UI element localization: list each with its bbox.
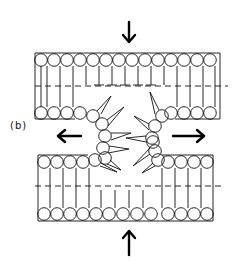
upper-bottom-heads [35,107,217,120]
splayed-lipids-left [87,96,131,172]
lower-top-heads [38,156,214,169]
upper-top-heads [35,54,217,67]
arrow-right-icon [173,130,204,142]
upper-bilayer [35,53,228,119]
lower-bilayer [35,155,222,221]
arrow-up-icon [123,231,135,255]
bilayer-fusion-diagram [0,0,236,267]
lower-bottom-heads [38,208,214,221]
arrow-left-icon [58,130,81,142]
arrow-down-icon [123,22,135,42]
